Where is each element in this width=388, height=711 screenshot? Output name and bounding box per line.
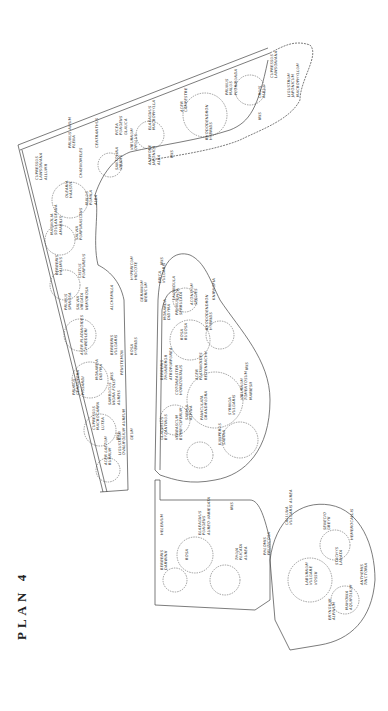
plant-label-line: BYZANTINUS [164, 414, 168, 440]
plant-label-labunum: LABURNUMVULGAREVOSSII [305, 562, 318, 585]
plant-label-line: HALIMUS [59, 255, 63, 275]
plant-label-rosa-rugosa: ROSARUGOSA [180, 323, 189, 340]
plant-label-line: PISSARDI [81, 370, 85, 395]
plant-label-verbascum: VERBASCUMBOMBYCIFERUM [175, 407, 184, 440]
plant-label-line: GLAUCA [124, 115, 128, 135]
plant-label-line: VULGARIS [114, 334, 118, 355]
plant-label-line: HIDCOTE [134, 256, 138, 280]
plant-label-line: ALBUS [262, 85, 266, 98]
plant-label-cotoneaster: COTONEASTERHORIZONTALIS [175, 365, 184, 395]
plant-label-malus-alba: MALUSPUMILAALBA [85, 190, 98, 205]
plant-label-berberis-darwinii: BERBERISDARWINII [160, 550, 169, 570]
plant-label-line: PLENA [72, 117, 76, 148]
plant-label-syringa: SYRINGAVULGARIS [228, 394, 237, 415]
plant-label-line: MARIESII [249, 371, 253, 400]
plant-label-iris-r: IRIS [258, 112, 262, 120]
plant-label-juniperus: JUNIPERUSSABINA [218, 423, 227, 445]
plant-label-line: IRIS [258, 112, 262, 120]
plant-label-salvia: SALVIAPURPURASCENS [75, 207, 84, 240]
plant-label-line: IRIS [230, 502, 234, 510]
plant-label-line: ALCHEMILLA [110, 284, 114, 310]
plant-label-berberis-vulgaris: BERBERISVULGARIS [110, 334, 119, 355]
plant-label-rosa-hybrid: ROSAHYBRIDS [130, 337, 139, 355]
plant-label-sabina: SABINAALPINA [185, 405, 194, 420]
plant-label-line: RUBRUM [108, 436, 112, 465]
plant-label-line: AQUIFOLIUM [349, 584, 353, 610]
plant-label-phlomis: PHLOMISFRUTICOSA [263, 532, 272, 555]
plant-label-iris-c2: IRIS [245, 362, 249, 370]
plant-label-magnolia: MAGNOLIASOULANGEANAAMABILIS [50, 204, 63, 235]
plant-label-line: HYBRIDS [209, 104, 213, 140]
plant-label-hypericum: HYPERICUMHIDCOTE [130, 256, 139, 280]
plant-label-line: AUREA [244, 544, 248, 560]
plant-label-line: IRIS [160, 257, 164, 265]
plant-label-line: AMABILIS [59, 204, 63, 235]
boundary-wall-outer [18, 48, 270, 150]
bottom-left-bed-outline [155, 480, 270, 610]
plant-label-line: ALPINA [189, 405, 193, 420]
plant-label-line: MACROPHYLLA [152, 100, 156, 130]
plant-label-line: HYBRIDS [209, 294, 213, 330]
plant-label-line: OVALIFOLIUM AUREUM [122, 409, 126, 455]
plant-label-line: MACROPHYLLUM [296, 63, 300, 97]
plant-label-line: SPECIES [194, 283, 198, 305]
plant-label-line: HAASTII [69, 180, 73, 198]
plant-label-cupressus-allumii: CUPRESSUSLAWSONIANAALLUMII [35, 153, 48, 180]
plant-label-line: AUREIS [117, 379, 121, 405]
plant-label-line: HORIZONTALIS [179, 365, 183, 395]
plant-label-acer-platanoides: ACER PLATANOIDESSCHWEDLERI [80, 315, 89, 355]
plant-label-iris-r2: IRIS [170, 150, 174, 158]
plant-label-line: ALLUMII [44, 153, 48, 180]
plant-label-rosa-l: ROSA [185, 549, 189, 560]
plant-label-senecio: SENECIOGREYII [323, 512, 332, 530]
plant-label-line: ALBA [94, 190, 98, 205]
plant-label-line: DIDYMA [99, 359, 103, 380]
plant-label-line: VOSSII [314, 562, 318, 585]
plant-label-line: PURPUREUS [82, 254, 86, 278]
plant-label-line: CAMPESTRE [184, 88, 188, 112]
plant-label-acer-laetum: ACER LAETUMRUBRUM [104, 436, 113, 465]
plant-label-line: BOMBYCIFERUM [179, 407, 183, 440]
plant-label-line: GEUM [130, 428, 134, 440]
plant-label-acer-c: ACERPLATANOIDESREITENBACHII [195, 351, 208, 380]
plant-label-hemerocallis: HEMEROCALLIS [350, 508, 354, 540]
plant-label-line: LUTEA [101, 402, 105, 430]
plant-label-line: VULGARIS AUREA [289, 489, 293, 525]
plant-label-line: TINCTORIA [364, 563, 368, 585]
plant-label-rhododendron-hybrid-r: RHODODENDRONHYBRIDS [205, 104, 214, 140]
plant-label-line: HELENIUM [160, 514, 164, 535]
plant-label-line: DARWINII [164, 550, 168, 570]
plant-label-cruis-albus: CRUISALBUS [258, 85, 267, 98]
plant-label-monarda-c: MONARDADIDYMA [163, 299, 172, 320]
plant-label-line: ATROPURPUREA [169, 347, 173, 380]
plant-label-iris-c: IRIS [160, 257, 164, 265]
plant-label-berberis-halimus: BERBERISHALIMUS [55, 255, 64, 275]
plant-label-sambucus: SAMBUCUSNIGRA FOLISAUREIS [108, 379, 121, 405]
plant-label-gladiolus: GLADIOLUSBYZANTINUS [160, 414, 169, 440]
plant-label-line: NEMOROSA [85, 287, 89, 310]
plant-label-anemone: ANEMONEJAPONICAALBA [148, 145, 161, 165]
plant-label-calluna: CALLUNAVULGARIS AUREA [285, 489, 294, 525]
plant-label-line: SCHWEDLERI [84, 315, 88, 355]
boundary-wall-bottom [100, 490, 128, 492]
plant-label-line: ALBA [157, 145, 161, 165]
plant-label-line: RUGOSA [184, 323, 188, 340]
plant-label-aconitum: ACONITUMSPECIES [190, 283, 199, 305]
plant-label-line: SERRULATA [179, 292, 183, 315]
plant-label-line: PURPURASCENS [79, 207, 83, 240]
right-bed-outline [150, 43, 313, 160]
plant-label-line: IRIS [170, 150, 174, 158]
plant-label-line: LAWSONIANA [274, 51, 278, 78]
plant-label-cistus: CISTUSPURPUREUS [78, 254, 87, 278]
plant-label-line: VIRIDIS [119, 147, 123, 170]
plant-label-cupressus-lawsoniana-r: CUPRESSUSLAWSONIANA [270, 51, 279, 78]
plant-label-salvia-virgata: SALVIAVIRGATANEMOROSA [76, 287, 89, 310]
plant-label-mahonia: MAHONIAAQUIFOLIUM [345, 584, 354, 610]
plant-label-prunus-cerasifera: PRUNUSCERASIFERAPISSARDI [72, 370, 85, 395]
plant-label-berberis-c: BERBERISTHUNBERGIIATROPURPUREA [160, 347, 173, 380]
plant-label-line: CHAENOMELES [79, 147, 83, 178]
plant-label-line: HYBRIDS [134, 337, 138, 355]
plant-label-ligustrum-ovalifolium: LIGUSTRUMOVALIFOLIUM AUREUM [118, 409, 127, 455]
plant-label-iris-l3: IRIS [230, 502, 234, 510]
plant-label-stachys: STACHYSLANATA [335, 547, 344, 565]
